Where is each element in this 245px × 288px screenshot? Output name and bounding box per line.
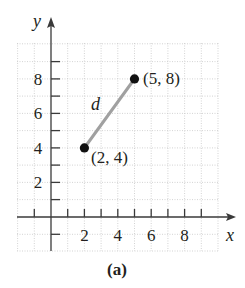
point-2-4 xyxy=(80,143,89,152)
y-tick-label: 6 xyxy=(34,104,43,123)
x-tick-label: 6 xyxy=(147,226,156,245)
segment-label-d: d xyxy=(91,94,101,114)
y-ticks xyxy=(51,62,60,235)
point-5-8 xyxy=(130,74,139,83)
y-tick-label: 8 xyxy=(34,70,43,89)
x-tick-label: 4 xyxy=(114,226,123,245)
point-label-2-4: (2, 4) xyxy=(91,148,128,167)
x-tick-label: 2 xyxy=(80,226,89,245)
x-tick-label: 8 xyxy=(180,226,189,245)
grid xyxy=(17,43,218,251)
point-label-5-8: (5, 8) xyxy=(143,69,180,88)
x-ticks xyxy=(34,209,201,217)
coordinate-plane: 2 4 6 8 8 6 4 2 x y d (2, 4) (5, 8) (a) xyxy=(0,0,245,288)
distance-graph-figure: 2 4 6 8 8 6 4 2 x y d (2, 4) (5, 8) (a) xyxy=(0,0,245,288)
y-tick-label: 4 xyxy=(34,139,43,158)
axes xyxy=(17,17,236,251)
figure-caption: (a) xyxy=(107,260,127,279)
x-axis-label: x xyxy=(225,225,234,245)
y-axis-label: y xyxy=(31,11,41,31)
y-tick-label: 2 xyxy=(34,173,43,192)
